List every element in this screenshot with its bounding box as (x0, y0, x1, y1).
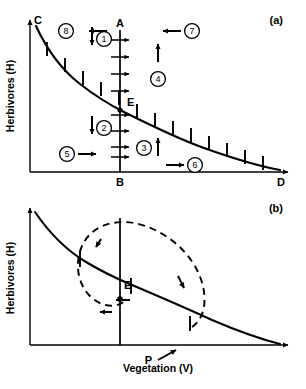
badge-6-label: 6 (192, 160, 197, 170)
annotation-4: 4 (151, 44, 166, 86)
panel-label-b: (b) (269, 202, 283, 214)
panel-b: E P (b) Herbivores (H) Vegetation (V) (0, 190, 306, 389)
p-pointer-arrow (158, 350, 176, 360)
label-point-d: D (277, 176, 285, 188)
equilibrium-point-a (117, 107, 122, 112)
label-point-c: C (34, 14, 42, 26)
badge-8-label: 8 (63, 26, 68, 36)
annotation-6: 6 (166, 158, 202, 173)
traj-arrow-right (178, 276, 184, 288)
curve-hash-marks-b (80, 251, 190, 331)
label-point-b: B (116, 176, 124, 188)
equilibrium-point-b (117, 296, 123, 302)
annotation-7: 7 (163, 24, 199, 39)
annotation-3: 3 (137, 138, 158, 156)
panel-a: C D A B E (a) Herbivores (H) 8 1 7 (0, 0, 306, 190)
h-isocline-curve-b (35, 212, 280, 344)
label-point-e-b: E (124, 279, 131, 291)
badge-2-label: 2 (101, 123, 106, 133)
badge-3-label: 3 (141, 143, 146, 153)
label-point-a: A (116, 17, 124, 29)
x-axis-label-b: Vegetation (V) (123, 362, 193, 374)
annotation-2: 2 (92, 116, 111, 135)
annotation-5: 5 (60, 147, 96, 162)
traj-arrow-upper-left (96, 239, 101, 247)
label-point-e-a: E (127, 96, 134, 108)
badge-5-label: 5 (64, 149, 69, 159)
badge-1-label: 1 (101, 34, 106, 44)
badge-7-label: 7 (189, 26, 194, 36)
figure-root: C D A B E (a) Herbivores (H) 8 1 7 (0, 0, 306, 389)
annotation-1: 1 (92, 27, 111, 46)
trajectory-spiral (78, 222, 205, 327)
y-axis-label-a: Herbivores (H) (4, 60, 16, 132)
curve-hash-marks (47, 42, 263, 170)
badge-4-label: 4 (155, 74, 160, 84)
y-axis-label-b: Herbivores (H) (4, 242, 16, 314)
panel-label-a: (a) (270, 14, 284, 26)
